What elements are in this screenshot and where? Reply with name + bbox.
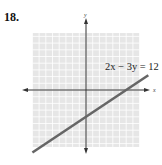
x-axis-left-arrow-icon (22, 88, 28, 92)
x-axis-right-arrow-icon (144, 88, 150, 92)
y-axis-label: y (83, 12, 87, 18)
coordinate-plane: 2x − 3y = 12 x y (0, 0, 162, 165)
y-axis-down-arrow-icon (84, 148, 88, 154)
equation-label: 2x − 3y = 12 (105, 61, 159, 72)
x-axis-label: x (152, 87, 156, 93)
y-axis-up-arrow-icon (84, 18, 88, 24)
